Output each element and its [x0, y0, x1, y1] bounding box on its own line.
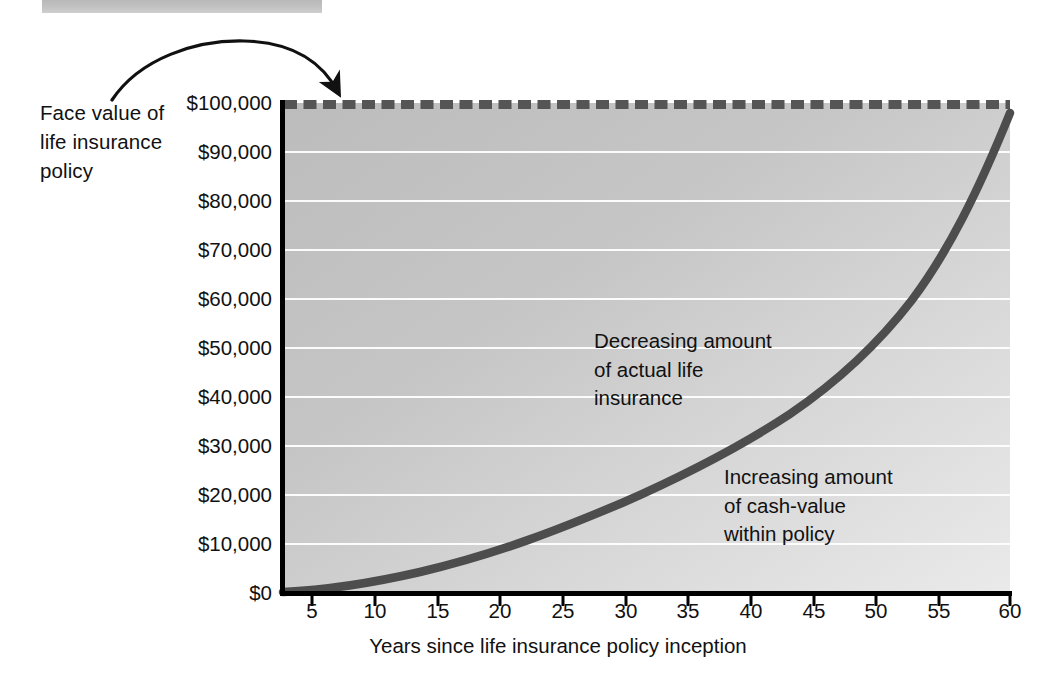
- annotation-decreasing-line-1: Decreasing amount: [594, 327, 772, 356]
- x-tick-label-20: 20: [480, 601, 520, 622]
- y-tick-label-10000: $10,000: [150, 534, 272, 555]
- annotation-increasing-line-3: within policy: [724, 520, 893, 549]
- y-tick-label-20000: $20,000: [150, 485, 272, 506]
- x-tick-label-55: 55: [919, 601, 959, 622]
- y-tick-label-60000: $60,000: [150, 289, 272, 310]
- y-tick-label-70000: $70,000: [150, 240, 272, 261]
- x-tick-label-15: 15: [418, 601, 458, 622]
- x-tick-label-10: 10: [355, 601, 395, 622]
- annotation-increasing-line-2: of cash-value: [724, 492, 893, 521]
- annotation-decreasing-insurance: Decreasing amount of actual life insuran…: [594, 327, 772, 413]
- annotation-increasing-line-1: Increasing amount: [724, 463, 893, 492]
- x-tick-label-40: 40: [731, 601, 771, 622]
- x-axis-title: Years since life insurance policy incept…: [0, 634, 1052, 658]
- y-tick-label-40000: $40,000: [150, 387, 272, 408]
- annotation-decreasing-line-2: of actual life: [594, 356, 772, 385]
- x-tick-label-60: 60: [990, 601, 1030, 622]
- x-tick-label-50: 50: [856, 601, 896, 622]
- y-tick-label-50000: $50,000: [150, 338, 272, 359]
- x-tick-label-5: 5: [292, 601, 332, 622]
- annotation-decreasing-line-3: insurance: [594, 384, 772, 413]
- x-tick-label-45: 45: [794, 601, 834, 622]
- y-tick-label-0: $0: [150, 583, 272, 604]
- x-axis-title-text: Years since life insurance policy incept…: [369, 634, 747, 657]
- y-tick-label-80000: $80,000: [150, 191, 272, 212]
- y-tick-label-30000: $30,000: [150, 436, 272, 457]
- x-tick-label-35: 35: [668, 601, 708, 622]
- x-tick-label-25: 25: [543, 601, 583, 622]
- annotation-increasing-cash-value: Increasing amount of cash-value within p…: [724, 463, 893, 549]
- figure-canvas: Face value of life insurance policy: [0, 0, 1052, 682]
- y-tick-label-90000: $90,000: [150, 142, 272, 163]
- x-tick-label-30: 30: [606, 601, 646, 622]
- chart: $100,000 $90,000 $80,000 $70,000 $60,000…: [0, 0, 1052, 682]
- y-tick-label-100000: $100,000: [150, 93, 272, 114]
- y-axis-labels: $100,000 $90,000 $80,000 $70,000 $60,000…: [150, 0, 272, 682]
